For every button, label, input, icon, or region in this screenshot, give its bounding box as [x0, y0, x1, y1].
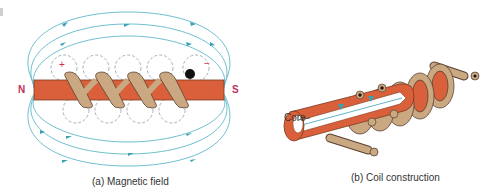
figure-coil-construction: Core (b) Coil construction	[250, 0, 494, 196]
coil-construction-diagram	[250, 0, 494, 196]
wire-terminal-icon	[185, 69, 195, 79]
south-pole-label: S	[232, 84, 239, 95]
core-label: Core	[284, 112, 306, 123]
caption-magnetic-field: (a) Magnetic field	[92, 176, 169, 187]
magnetic-field-diagram	[0, 0, 250, 196]
positive-terminal-label: +	[59, 59, 65, 70]
figure-magnetic-field: N S + − (a) Magnetic field	[0, 0, 250, 196]
caption-coil-construction: (b) Coil construction	[351, 172, 440, 183]
negative-terminal-label: −	[204, 58, 210, 69]
north-pole-label: N	[18, 84, 25, 95]
